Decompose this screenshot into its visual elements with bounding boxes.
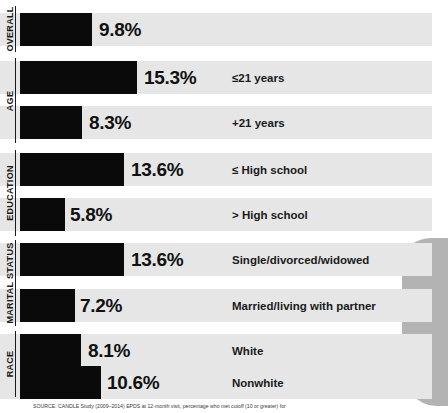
table-row: 13.6% ≤ High school (0, 153, 432, 186)
bar-category-label: Nonwhite (232, 377, 284, 389)
bar-category-label: ≤21 years (232, 72, 284, 84)
bar-category-label: +21 years (232, 117, 285, 129)
bar-marital-married (20, 289, 75, 322)
bar-education-lte-highschool (20, 153, 124, 186)
bar-category-label: ≤ High school (232, 164, 307, 176)
bar-value-label: 7.2% (80, 295, 122, 317)
group-label: OVERALL (5, 6, 15, 51)
table-row: 13.6% Single/divorced/widowed (0, 243, 432, 276)
bar-education-gt-highschool (20, 198, 65, 231)
table-row: 8.3% +21 years (0, 106, 432, 139)
bar-category-label: > High school (232, 209, 308, 221)
bar-race-nonwhite (20, 366, 101, 399)
group-axis-race: RACE (0, 331, 20, 397)
bar-category-label: Single/divorced/widowed (232, 254, 369, 266)
bar-value-label: 5.8% (70, 204, 112, 226)
bar-marital-single (20, 243, 124, 276)
bar-value-label: 13.6% (131, 249, 183, 271)
table-row: 7.2% Married/living with partner (0, 289, 432, 322)
table-row: 10.6% Nonwhite (0, 366, 432, 399)
source-note: SOURCE: CANDLE Study (2009–2014) EPDS at… (33, 403, 425, 410)
group-axis-age: AGE (0, 58, 20, 143)
table-row: 15.3% ≤21 years (0, 61, 432, 94)
table-row: 8.1% White (0, 334, 432, 367)
bar-age-lte21 (20, 61, 137, 94)
table-row: 5.8% > High school (0, 198, 432, 231)
bar-value-label: 13.6% (131, 159, 183, 181)
bar-category-label: Married/living with partner (232, 300, 376, 312)
group-label: MARITAL STATUS (5, 242, 15, 323)
bar-value-label: 10.6% (107, 372, 159, 394)
group-label: AGE (5, 90, 15, 110)
bar-race-white (20, 334, 81, 367)
table-row: 9.8% (0, 13, 432, 46)
bar-value-label: 8.3% (89, 112, 131, 134)
group-axis-marital-status: MARITAL STATUS (0, 240, 20, 326)
bar-overall (20, 13, 92, 46)
bar-value-label: 8.1% (88, 340, 130, 362)
bar-category-label: White (232, 345, 263, 357)
group-axis-overall: OVERALL (0, 6, 20, 52)
group-label: EDUCATION (5, 165, 15, 221)
bar-value-label: 9.8% (99, 19, 141, 41)
bar-value-label: 15.3% (144, 67, 196, 89)
group-label: RACE (5, 351, 15, 378)
bar-age-plus21 (20, 106, 82, 139)
group-axis-education: EDUCATION (0, 150, 20, 236)
